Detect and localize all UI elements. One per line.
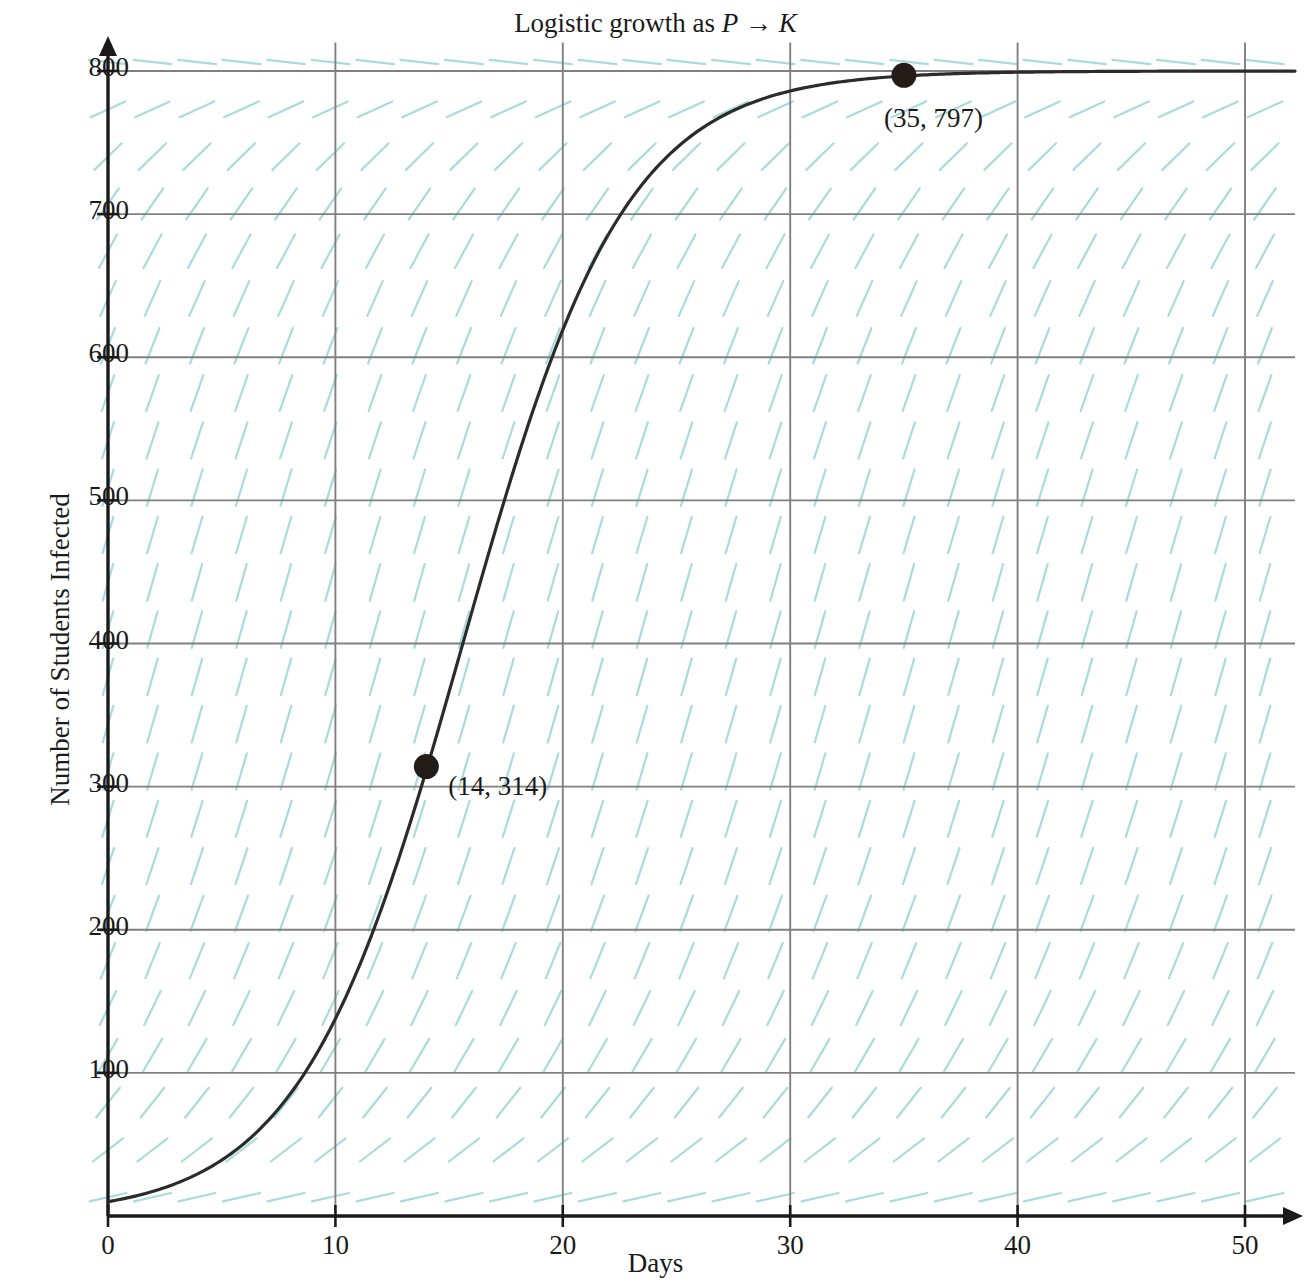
axis-ticks (97, 71, 1245, 1227)
chart-title-var-P: P (722, 8, 739, 38)
y-tick-label-500: 500 (89, 481, 130, 512)
chart-figure: Logistic growth as P → K Days Number of … (0, 0, 1311, 1285)
x-axis-arrowhead (1283, 1207, 1303, 1225)
x-tick-label-0: 0 (68, 1230, 148, 1261)
x-tick-label-20: 20 (523, 1230, 603, 1261)
slope-field (89, 60, 1284, 1202)
annotation-markers (414, 63, 917, 779)
y-tick-label-600: 600 (89, 338, 130, 369)
chart-title: Logistic growth as P → K (0, 8, 1311, 39)
chart-title-var-K: K (779, 8, 797, 38)
y-tick-label-400: 400 (89, 625, 130, 656)
chart-title-text: Logistic growth as (514, 8, 722, 38)
y-axis-title: Number of Students Infected (45, 440, 76, 860)
chart-title-arrow: → (738, 8, 779, 38)
plot-canvas (0, 0, 1311, 1285)
x-tick-label-50: 50 (1205, 1230, 1285, 1261)
x-tick-label-30: 30 (750, 1230, 830, 1261)
y-tick-label-700: 700 (89, 195, 130, 226)
point-label-2: (35, 797) (884, 103, 983, 134)
x-tick-label-40: 40 (978, 1230, 1058, 1261)
x-tick-label-10: 10 (295, 1230, 375, 1261)
solution-curve (108, 71, 1295, 1202)
x-axis-title: Days (0, 1248, 1311, 1279)
point-label-1: (14, 314) (448, 771, 547, 802)
y-tick-label-300: 300 (89, 768, 130, 799)
y-tick-label-100: 100 (89, 1054, 130, 1085)
y-tick-label-800: 800 (89, 52, 130, 83)
y-tick-label-200: 200 (89, 911, 130, 942)
